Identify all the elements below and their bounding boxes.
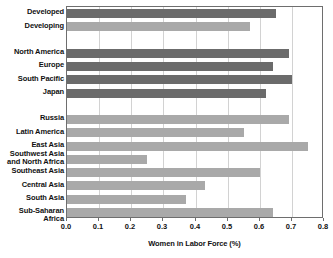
bar-row	[67, 73, 322, 86]
tick-mark	[195, 218, 196, 221]
bar-row	[67, 113, 322, 126]
bar-row	[67, 193, 322, 206]
bar	[67, 115, 289, 124]
category-label: Developing	[0, 22, 64, 30]
bar-row	[67, 153, 322, 166]
category-label: Europe	[0, 61, 64, 69]
category-label: Latin America	[0, 128, 64, 136]
bar	[67, 22, 250, 31]
bar	[67, 9, 276, 18]
tick-label: 0.3	[147, 222, 177, 231]
x-axis-title: Women in Labor Force (%)	[66, 239, 323, 248]
bar	[67, 155, 147, 164]
category-label: Central Asia	[0, 181, 64, 189]
spacer-row	[67, 100, 322, 113]
tick-label: 0.2	[115, 222, 145, 231]
tick-label: 0.8	[308, 222, 333, 231]
tick-label: 0.7	[276, 222, 306, 231]
category-label: Sub-Saharan Africa	[0, 207, 64, 223]
tick-mark	[162, 218, 163, 221]
spacer-row	[67, 34, 322, 47]
bar-row	[67, 166, 322, 179]
bar	[67, 89, 266, 98]
bar	[67, 208, 273, 217]
tick-mark	[291, 218, 292, 221]
tick-mark	[259, 218, 260, 221]
category-label: Japan	[0, 88, 64, 96]
value-axis-ticks: 0.00.10.20.30.40.50.60.70.8	[66, 218, 323, 232]
bar-row	[67, 140, 322, 153]
tick-mark	[323, 218, 324, 221]
bar-row	[67, 87, 322, 100]
category-label: East Asia	[0, 141, 64, 149]
category-label: South Asia	[0, 194, 64, 202]
category-axis-labels: DevelopedDevelopingNorth AmericaEuropeSo…	[0, 6, 64, 218]
bar-row	[67, 20, 322, 33]
bar	[67, 75, 292, 84]
plot-area	[66, 6, 323, 218]
bar	[67, 142, 308, 151]
tick-label: 0.6	[244, 222, 274, 231]
category-label: North America	[0, 48, 64, 56]
bar	[67, 62, 273, 71]
category-label: South Pacific	[0, 75, 64, 83]
bar-row	[67, 47, 322, 60]
category-label: Russia	[0, 114, 64, 122]
bar-rows	[67, 7, 322, 217]
bar	[67, 181, 205, 190]
tick-mark	[130, 218, 131, 221]
bar	[67, 49, 289, 58]
category-label: Southwest Asiaand North Africa	[0, 150, 64, 166]
bar-row	[67, 7, 322, 20]
tick-mark	[227, 218, 228, 221]
tick-mark	[98, 218, 99, 221]
tick-label: 0.0	[51, 222, 81, 231]
category-label: Southeast Asia	[0, 167, 64, 175]
bar-row	[67, 60, 322, 73]
bar-row	[67, 179, 322, 192]
bar	[67, 128, 244, 137]
category-label: Developed	[0, 8, 64, 16]
tick-label: 0.5	[212, 222, 242, 231]
bar	[67, 195, 186, 204]
tick-label: 0.4	[180, 222, 210, 231]
bar-row	[67, 126, 322, 139]
bar	[67, 168, 260, 177]
bar-row	[67, 206, 322, 218]
tick-label: 0.1	[83, 222, 113, 231]
tick-mark	[66, 218, 67, 221]
bar-chart: DevelopedDevelopingNorth AmericaEuropeSo…	[0, 0, 333, 258]
